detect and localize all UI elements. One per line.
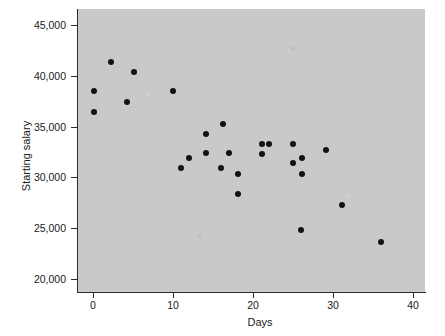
y-axis-tick — [71, 228, 77, 229]
y-axis-tick — [71, 177, 77, 178]
y-axis-tick — [71, 25, 77, 26]
data-point — [298, 227, 304, 233]
data-point — [170, 88, 176, 94]
x-axis-tick — [93, 292, 94, 298]
x-axis-tick-label: 20 — [233, 299, 273, 311]
data-point — [220, 121, 226, 127]
x-axis-title-text: Days — [172, 316, 272, 328]
y-axis-tick-label: 25,000 — [34, 222, 66, 234]
data-point — [235, 191, 241, 197]
y-axis-tick — [71, 279, 77, 280]
data-point — [323, 147, 329, 153]
y-axis-tick — [71, 127, 77, 128]
scan-noise-texture — [78, 9, 425, 292]
data-point — [178, 165, 184, 171]
data-point — [91, 109, 97, 115]
data-point — [186, 155, 192, 161]
x-axis-tick-label: 40 — [393, 299, 433, 311]
x-axis-tick-label: 0 — [73, 299, 113, 311]
data-point — [299, 171, 305, 177]
data-point — [290, 160, 296, 166]
data-point — [91, 88, 97, 94]
data-point — [378, 239, 384, 245]
x-axis-tick — [333, 292, 334, 298]
y-axis-tick-label: 20,000 — [34, 273, 66, 285]
data-point — [203, 150, 209, 156]
x-axis-title: Days — [0, 316, 445, 328]
y-axis-tick-label: 40,000 — [34, 70, 66, 82]
y-axis-tick — [71, 76, 77, 77]
y-axis-title: Starting salary — [20, 96, 32, 216]
data-point — [131, 69, 137, 75]
data-point — [259, 141, 265, 147]
data-point — [226, 150, 232, 156]
data-point — [108, 59, 114, 65]
data-point — [290, 141, 296, 147]
y-axis-tick-label: 35,000 — [34, 121, 66, 133]
data-point — [235, 171, 241, 177]
data-point — [124, 99, 130, 105]
x-axis-tick — [413, 292, 414, 298]
scatter-plot-figure: 20,00025,00030,00035,00040,00045,000 010… — [0, 0, 445, 336]
data-point — [266, 141, 272, 147]
data-point — [259, 151, 265, 157]
data-point — [299, 155, 305, 161]
plot-area — [78, 9, 425, 292]
x-axis-line — [77, 292, 426, 293]
x-axis-tick-label: 10 — [153, 299, 193, 311]
data-point — [203, 131, 209, 137]
data-point — [218, 165, 224, 171]
y-axis-tick-label: 45,000 — [34, 19, 66, 31]
x-axis-tick-label: 30 — [313, 299, 353, 311]
y-axis-line — [77, 9, 78, 293]
y-axis-tick-label: 30,000 — [34, 171, 66, 183]
x-axis-tick — [253, 292, 254, 298]
data-point — [339, 202, 345, 208]
x-axis-tick — [173, 292, 174, 298]
